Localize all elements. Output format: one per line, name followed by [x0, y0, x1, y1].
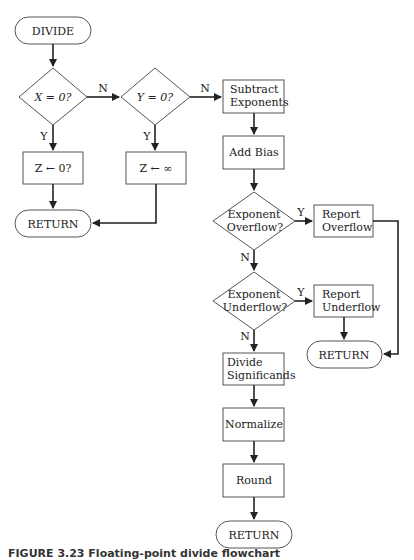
- edge-report-overflow-return: [373, 221, 398, 354]
- report-overflow-label-2: Overflow: [322, 221, 373, 234]
- figure-caption: FIGURE 3.23 Floating-point divide flowch…: [8, 547, 280, 560]
- divide-flowchart: DIVIDE X = 0? N Y Y = 0? N Y Z ← 0? Z ← …: [0, 0, 414, 560]
- round-process: Round: [223, 464, 284, 497]
- report-underflow-label-1: Report: [322, 288, 361, 301]
- divide-significands-label-1: Divide: [227, 356, 263, 369]
- divide-label: DIVIDE: [32, 25, 74, 38]
- report-underflow-label-2: Underflow: [322, 301, 381, 314]
- subtract-label-1: Subtract: [230, 83, 279, 96]
- z-infinity-process: Z ← ∞: [126, 152, 186, 184]
- z-zero-process: Z ← 0?: [23, 152, 83, 184]
- return-label-1: RETURN: [28, 218, 79, 231]
- return-label-2: RETURN: [319, 349, 370, 362]
- edge-overflow-no-label: N: [240, 251, 250, 264]
- add-bias-process: Add Bias: [223, 136, 284, 169]
- normalize-process: Normalize: [223, 408, 284, 441]
- x-zero-decision: X = 0?: [19, 68, 87, 125]
- edge-y-no-label: N: [200, 82, 210, 95]
- underflow-label-2: Underflow?: [223, 301, 288, 314]
- edge-y-yes-label: Y: [142, 130, 151, 143]
- round-label: Round: [236, 474, 272, 487]
- add-bias-label: Add Bias: [228, 146, 279, 159]
- return-node-3: RETURN: [216, 521, 292, 548]
- subtract-label-2: Exponents: [230, 96, 289, 109]
- edge-underflow-yes-label: Y: [296, 286, 305, 299]
- overflow-decision: Exponent Overflow?: [213, 192, 295, 250]
- y-zero-label: Y = 0?: [137, 91, 173, 104]
- underflow-decision: Exponent Underflow?: [213, 272, 295, 330]
- divide-start-node: DIVIDE: [15, 17, 91, 44]
- edge-underflow-no-label: N: [240, 330, 250, 343]
- normalize-label: Normalize: [225, 418, 283, 431]
- edge-x-yes-label: Y: [39, 130, 48, 143]
- y-zero-decision: Y = 0?: [121, 68, 190, 125]
- divide-significands-process: Divide Significands: [223, 353, 296, 385]
- underflow-label-1: Exponent: [228, 288, 282, 301]
- return-node-2: RETURN: [307, 341, 382, 368]
- overflow-label-1: Exponent: [228, 208, 282, 221]
- z-zero-label: Z ← 0?: [35, 162, 72, 175]
- divide-significands-label-2: Significands: [227, 369, 296, 382]
- x-zero-label: X = 0?: [34, 91, 72, 104]
- return-node-1: RETURN: [15, 210, 91, 237]
- report-overflow-label-1: Report: [322, 208, 361, 221]
- edge-overflow-yes-label: Y: [296, 206, 305, 219]
- report-underflow-process: Report Underflow: [314, 285, 381, 317]
- overflow-label-2: Overflow?: [227, 221, 283, 234]
- z-infinity-label: Z ← ∞: [139, 162, 172, 175]
- report-overflow-process: Report Overflow: [314, 205, 373, 237]
- edge-x-no-label: N: [98, 82, 108, 95]
- subtract-exponents-process: Subtract Exponents: [223, 80, 289, 113]
- edge-zinf-return: [93, 184, 156, 223]
- return-label-3: RETURN: [229, 529, 280, 542]
